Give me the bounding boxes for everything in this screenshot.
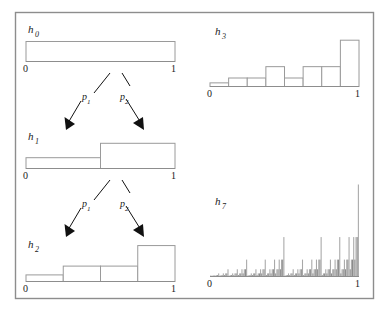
histogram-bar [244,269,245,276]
histogram-bar [309,269,310,276]
histogram-bar [269,269,270,276]
histogram-bar [63,266,100,281]
h0-axis-max: 1 [171,63,176,74]
histogram-bar [247,78,266,87]
histogram-bar [347,260,348,277]
histogram-bar [138,246,175,282]
histogram-bar [266,67,285,87]
cascade-figure: h 0 0 1 p 1 p 2 h 1 0 1 [0,0,389,312]
panel-h2-label: h [28,238,34,250]
histogram-bar [282,260,283,277]
histogram-bar [26,158,101,169]
panel-h7-label: h [215,195,221,207]
histogram-bar [342,269,343,276]
h3-axis-min: 0 [207,88,212,99]
histogram-bar [262,269,263,276]
histogram-bar [316,260,317,277]
histogram-bar [300,269,301,276]
panel-h1-label: h [28,130,34,142]
histogram-bar [335,260,336,277]
histogram-bar [353,237,354,276]
h7-axis-min: 0 [207,278,212,289]
h7-axis-max: 1 [355,278,360,289]
histogram-bar [354,260,355,277]
figure-canvas: h 0 0 1 p 1 p 2 h 1 0 1 [0,0,389,312]
histogram-bar [274,260,275,277]
histogram-bar [276,269,277,276]
histogram-bar [303,67,322,87]
histogram-bar [318,260,319,277]
histogram-bar [338,260,339,277]
h1-axis-min: 0 [23,170,28,181]
histogram-bar [246,260,247,277]
histogram-bar [332,269,333,276]
histogram-bar [307,269,308,276]
histogram-bar [281,260,282,277]
histogram-bar [339,237,340,276]
h3-axis-max: 1 [355,88,360,99]
histogram-bar [297,269,298,276]
h0-bars [26,42,175,62]
arrow2-right-subscript: 2 [125,205,129,213]
histogram-bar [302,260,303,277]
histogram-bar [311,260,312,277]
histogram-bar [273,269,274,276]
histogram-bar [346,260,347,277]
histogram-bar [272,269,273,276]
histogram-bar [330,260,331,277]
histogram-bar [227,269,228,276]
histogram-bar [336,269,337,276]
panel-h3-subscript: 3 [221,32,226,41]
panel-h2-subscript: 2 [35,245,39,254]
histogram-bar [285,78,304,87]
histogram-bar [210,83,229,87]
histogram-bar [280,269,281,276]
arrow1-right-subscript: 2 [125,98,129,106]
h0-axis-min: 0 [23,63,28,74]
h2-axis-max: 1 [171,283,176,294]
h2-axis-min: 0 [23,283,28,294]
histogram-bar [317,269,318,276]
histogram-bar [264,269,265,276]
panel-h1-subscript: 1 [35,137,39,146]
arrow1-left-subscript: 1 [87,98,91,106]
histogram-bar [301,269,302,276]
histogram-bar [293,269,294,276]
histogram-bar [315,269,316,276]
histogram-bar [265,260,266,277]
histogram-bar [26,42,175,62]
histogram-bar [333,269,334,276]
histogram-bar [329,269,330,276]
histogram-bar [26,275,63,282]
histogram-bar [340,40,359,86]
histogram-bar [279,260,280,277]
histogram-bar [322,67,341,87]
panel-h0-subscript: 0 [35,30,39,39]
histogram-bar [349,237,350,276]
histogram-bar [357,237,358,276]
histogram-bar [314,269,315,276]
histogram-bar [241,269,242,276]
h1-axis-max: 1 [171,170,176,181]
histogram-bar [278,269,279,276]
histogram-bar [358,185,359,277]
histogram-bar [101,143,176,168]
histogram-bar [343,269,344,276]
panel-h3-label: h [215,25,221,37]
histogram-bar [283,237,284,276]
histogram-bar [356,237,357,276]
histogram-bar [229,78,248,87]
panel-h0-label: h [28,23,34,35]
histogram-bar [101,266,138,281]
histogram-bar [345,269,346,276]
histogram-bar [255,269,256,276]
histogram-bar [350,269,351,276]
histogram-bar [344,260,345,277]
histogram-bar [325,269,326,276]
histogram-bar [237,269,238,276]
histogram-bar [351,260,352,277]
histogram-bar [321,237,322,276]
histogram-bar [319,260,320,277]
histogram-bar [245,269,246,276]
histogram-bar [260,269,261,276]
